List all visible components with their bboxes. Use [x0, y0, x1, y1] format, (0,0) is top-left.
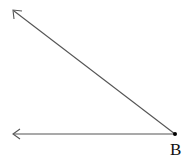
angle-diagram: B — [0, 0, 194, 159]
upper-ray — [13, 10, 175, 134]
vertex-point — [173, 132, 177, 136]
lower-ray — [13, 129, 175, 139]
vertex-label: B — [170, 140, 181, 159]
